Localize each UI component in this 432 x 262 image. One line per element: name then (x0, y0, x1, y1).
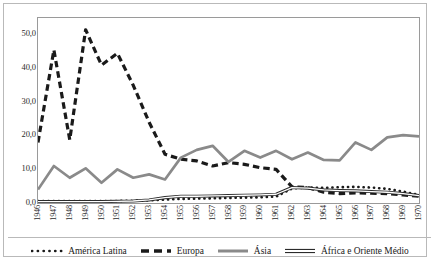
chart-legend: América LatinaEuropaÁsiaÁfrica e Oriente… (4, 238, 432, 262)
x-axis-tick-label: 1966 (351, 205, 361, 221)
legend-item[interactable]: Europa (140, 246, 204, 256)
dotted-line-marker (31, 246, 63, 256)
x-axis-tick-label: 1947 (49, 205, 59, 221)
x-axis-tick-label: 1959 (239, 205, 249, 221)
x-axis-tick-label: 1948 (65, 205, 75, 221)
x-axis-tick-label: 1956 (192, 205, 202, 221)
legend-item[interactable]: Ásia (217, 246, 271, 256)
x-axis-tick-label: 1958 (224, 205, 234, 221)
chart-plot-region: 0,010,020,030,040,050,0 1946194719481949… (4, 4, 432, 236)
y-axis-tick-label: 30,0 (6, 97, 36, 106)
legend-item[interactable]: América Latina (31, 246, 127, 256)
series-line-europa (38, 30, 419, 197)
x-axis-tick-label: 1954 (160, 205, 170, 221)
x-axis-tick-label: 1969 (398, 205, 408, 221)
x-axis-tick-label: 1964 (319, 205, 329, 221)
x-axis-tick-label: 1960 (255, 205, 265, 221)
x-axis-tick-label: 1965 (335, 205, 345, 221)
solid-gray-line-marker (217, 246, 249, 256)
chart-frame: 0,010,020,030,040,050,0 1946194719481949… (3, 3, 427, 257)
double-line-marker (284, 246, 316, 256)
x-axis-tick-label: 1957 (208, 205, 218, 221)
legend-item-label: África e Oriente Médio (321, 246, 409, 256)
dashed-line-marker (140, 246, 172, 256)
x-axis-tick-label: 1950 (97, 205, 107, 221)
x-axis-tick-label: 1961 (271, 205, 281, 221)
x-axis-tick-label: 1952 (128, 205, 138, 221)
x-axis-tick-label: 1967 (366, 205, 376, 221)
legend-item-label: Europa (177, 246, 204, 256)
series-svg (38, 18, 419, 203)
x-axis: 1946194719481949195019511952195319541955… (37, 205, 420, 239)
y-axis: 0,010,020,030,040,050,0 (4, 4, 36, 236)
x-axis-tick-label: 1949 (81, 205, 91, 221)
x-axis-tick-label: 1970 (414, 205, 424, 221)
y-axis-tick-label: 10,0 (6, 164, 36, 173)
y-axis-tick-label: 0,0 (6, 198, 36, 207)
plot-area (37, 17, 420, 204)
x-axis-tick-label: 1962 (287, 205, 297, 221)
x-axis-tick-label: 1953 (144, 205, 154, 221)
y-axis-tick-label: 20,0 (6, 130, 36, 139)
y-axis-tick-label: 50,0 (6, 29, 36, 38)
legend-item[interactable]: África e Oriente Médio (284, 246, 409, 256)
x-axis-tick-label: 1968 (382, 205, 392, 221)
legend-item-label: Ásia (254, 246, 271, 256)
y-axis-tick-label: 40,0 (6, 63, 36, 72)
series-line-asia (38, 135, 419, 190)
x-axis-tick-label: 1963 (303, 205, 313, 221)
x-axis-tick-label: 1946 (33, 205, 43, 221)
x-axis-tick-label: 1951 (112, 205, 122, 221)
legend-item-label: América Latina (68, 246, 127, 256)
x-axis-tick-label: 1955 (176, 205, 186, 221)
